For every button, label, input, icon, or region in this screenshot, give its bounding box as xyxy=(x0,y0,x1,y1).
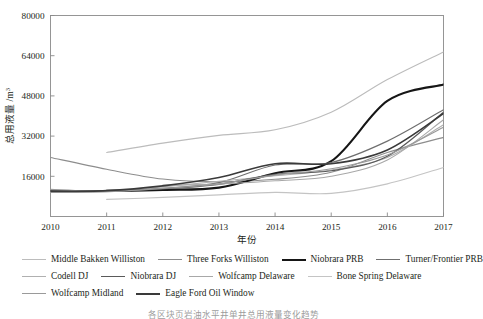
legend-swatch xyxy=(158,259,182,260)
legend-label: Niobrara PRB xyxy=(311,254,364,265)
chart-legend: Middle Bakken WillistonThree Forks Willi… xyxy=(22,251,462,302)
plot-area: 1600032000480006400080000201020112012201… xyxy=(0,0,466,250)
x-tick-label: 2014 xyxy=(266,222,285,232)
series-line xyxy=(107,52,444,152)
series-line xyxy=(163,120,444,185)
legend-item[interactable]: Niobrara DJ xyxy=(101,271,176,282)
legend-item[interactable]: Wolfcamp Delaware xyxy=(189,271,294,282)
legend-swatch xyxy=(22,259,46,260)
x-tick-label: 2010 xyxy=(41,222,60,232)
legend-item[interactable]: Wolfcamp Midland xyxy=(22,288,123,299)
legend-swatch xyxy=(101,276,125,277)
x-tick-label: 2015 xyxy=(322,222,341,232)
series-group xyxy=(51,52,444,199)
legend-swatch xyxy=(22,276,46,277)
x-axis-title: 年份 xyxy=(237,234,257,245)
y-tick-label: 80000 xyxy=(22,11,45,21)
figure-caption: 各区块页岩油水平井单井总用液量变化趋势 xyxy=(0,308,466,319)
x-tick-label: 2012 xyxy=(154,222,173,232)
legend-swatch xyxy=(282,259,306,261)
legend-row: Middle Bakken WillistonThree Forks Willi… xyxy=(22,251,462,268)
legend-label: Niobrara DJ xyxy=(130,271,176,282)
x-tick-label: 2011 xyxy=(98,222,116,232)
y-axis-title: 总用液量 /m3 xyxy=(4,88,15,144)
y-axis-title-sup: 3 xyxy=(4,88,11,91)
y-axis-title-text: 总用液量 /m3 xyxy=(4,88,15,144)
legend-swatch xyxy=(136,293,160,295)
legend-label: Codell DJ xyxy=(51,271,88,282)
legend-swatch xyxy=(376,259,400,260)
plot-frame xyxy=(51,16,444,217)
line-chart: 1600032000480006400080000201020112012201… xyxy=(0,0,466,250)
x-tick-label: 2013 xyxy=(210,222,229,232)
legend-swatch xyxy=(189,276,213,277)
legend-label: Three Forks Williston xyxy=(187,254,269,265)
y-tick-label: 32000 xyxy=(22,131,45,141)
legend-row: Codell DJNiobrara DJWolfcamp DelawareBon… xyxy=(22,268,462,285)
legend-label: Bone Spring Delaware xyxy=(337,271,422,282)
legend-row: Wolfcamp MidlandEagle Ford Oil Window xyxy=(22,285,462,302)
legend-item[interactable]: Turner/Frontier PRB xyxy=(376,254,482,265)
legend-item[interactable]: Niobrara PRB xyxy=(282,254,364,265)
y-tick-label: 48000 xyxy=(22,91,45,101)
x-tick-label: 2017 xyxy=(434,222,453,232)
legend-label: Wolfcamp Delaware xyxy=(218,271,294,282)
y-tick-label: 16000 xyxy=(22,172,45,182)
legend-label: Eagle Ford Oil Window xyxy=(165,288,254,299)
legend-item[interactable]: Middle Bakken Williston xyxy=(22,254,145,265)
legend-item[interactable]: Codell DJ xyxy=(22,271,88,282)
legend-label: Turner/Frontier PRB xyxy=(405,254,482,265)
y-tick-label: 64000 xyxy=(22,51,45,61)
legend-label: Middle Bakken Williston xyxy=(51,254,145,265)
legend-item[interactable]: Three Forks Williston xyxy=(158,254,269,265)
legend-swatch xyxy=(308,276,332,277)
legend-swatch xyxy=(22,293,46,294)
legend-label: Wolfcamp Midland xyxy=(51,288,123,299)
series-line xyxy=(51,137,444,181)
x-tick-label: 2016 xyxy=(378,222,397,232)
legend-item[interactable]: Eagle Ford Oil Window xyxy=(136,288,254,299)
legend-item[interactable]: Bone Spring Delaware xyxy=(308,271,422,282)
